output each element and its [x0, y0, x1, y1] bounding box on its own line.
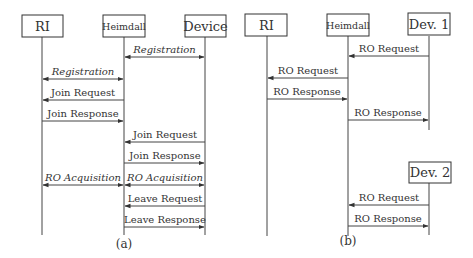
participant-dev1: Dev. 1: [408, 13, 450, 35]
participant-dev1-label: Dev. 1: [409, 17, 449, 32]
svg-text:Leave Request: Leave Request: [128, 193, 203, 204]
message-join-request-from-device: Join Request: [125, 129, 205, 142]
message-ro-response-ri-heimdall: RO Response: [267, 86, 347, 99]
svg-text:RO Acquisition: RO Acquisition: [126, 172, 203, 183]
participant-heimdall: Heimdall: [102, 15, 146, 37]
svg-text:RO Response: RO Response: [354, 213, 421, 224]
diagram-a: RI Heimdall Device Registration Registra…: [22, 15, 228, 251]
svg-text:Registration: Registration: [132, 44, 196, 55]
svg-text:RO Request: RO Request: [359, 43, 419, 54]
diagram-b: RI Heimdall Dev. 1 Dev. 2 RO Request RO …: [245, 13, 451, 248]
participant-heimdall-label: Heimdall: [326, 20, 370, 31]
participant-dev2-label: Dev. 2: [410, 165, 450, 180]
message-ro-acquisition-heimdall-device: RO Acquisition: [125, 172, 204, 185]
message-join-request-to-ri: Join Request: [43, 87, 124, 100]
svg-text:Join Response: Join Response: [46, 108, 118, 119]
svg-text:RO Request: RO Request: [359, 192, 419, 203]
message-registration-heimdall-device: Registration: [125, 44, 204, 57]
message-leave-response-to-device: Leave Response: [124, 214, 206, 227]
participant-ri: RI: [245, 14, 287, 36]
participant-dev2: Dev. 2: [409, 162, 451, 183]
caption-a: (a): [116, 237, 133, 251]
message-ro-request-heimdall-ri: RO Request: [268, 65, 348, 78]
participant-device-label: Device: [183, 19, 228, 34]
participant-heimdall-label: Heimdall: [102, 21, 146, 32]
message-ro-request-dev1-heimdall: RO Request: [349, 43, 429, 56]
sequence-diagrams: RI Heimdall Device Registration Registra…: [0, 0, 473, 258]
message-ro-response-heimdall-dev2: RO Response: [348, 213, 428, 226]
svg-text:Join Request: Join Request: [50, 87, 115, 98]
caption-b: (b): [339, 234, 356, 248]
participant-ri: RI: [22, 15, 63, 37]
svg-text:RO Response: RO Response: [354, 107, 421, 118]
message-join-response-to-device: Join Response: [124, 150, 204, 163]
svg-text:RO Request: RO Request: [278, 65, 338, 76]
svg-text:Join Response: Join Response: [128, 150, 200, 161]
svg-text:Leave Response: Leave Response: [124, 214, 206, 225]
participant-device: Device: [183, 15, 228, 37]
message-join-response-to-heimdall: Join Response: [42, 108, 123, 121]
svg-text:RO Response: RO Response: [273, 86, 340, 97]
participant-ri-label: RI: [259, 18, 274, 33]
message-registration-ri-heimdall: Registration: [43, 66, 123, 79]
message-ro-acquisition-ri-heimdall: RO Acquisition: [43, 172, 123, 185]
participant-heimdall: Heimdall: [326, 14, 370, 36]
svg-text:Registration: Registration: [51, 66, 115, 77]
svg-text:RO Acquisition: RO Acquisition: [44, 172, 121, 183]
message-ro-request-dev2-heimdall: RO Request: [349, 192, 429, 205]
message-ro-response-heimdall-dev1: RO Response: [348, 107, 428, 120]
svg-text:Join Request: Join Request: [132, 129, 197, 140]
participant-ri-label: RI: [35, 19, 50, 34]
message-leave-request-from-device: Leave Request: [125, 193, 205, 206]
